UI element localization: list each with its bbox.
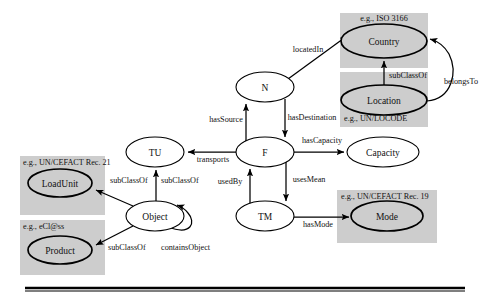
node-label-tm: TM (258, 212, 273, 222)
edge-label-hasSource: hasSource (209, 115, 243, 124)
caption-unlocode: e.g., UN/LOCODE (344, 114, 407, 123)
edge-label-hasCapacity: hasCapacity (302, 136, 343, 145)
edge-label-usesMean: usesMean (293, 175, 326, 184)
node-label-tu: TU (149, 148, 162, 158)
edge-label-hasMode: hasMode (303, 220, 333, 229)
caption-iso3166: e.g., ISO 3166 (360, 14, 408, 23)
edge-label-locatedIn: locatedIn (293, 45, 323, 54)
caption-uncefact-21: e.g., UN/CEFACT Rec. 21 (23, 158, 111, 167)
edge-label-subClassOf-pr: subClassOf (108, 243, 146, 252)
edge-label-usedBy: usedBy (218, 177, 243, 186)
edge-label-containsObject: containsObject (161, 243, 211, 252)
caption-uncefact-19: e.g., UN/CEFACT Rec. 19 (341, 192, 429, 201)
diagram-canvas: Country Location N F TU TM Capacity Mode… (0, 0, 490, 296)
edge-label-belongsTo: belongsTo (444, 77, 478, 86)
node-label-mode: Mode (376, 212, 398, 222)
edge-label-subClassOf-lu: subClassOf (110, 176, 148, 185)
caption-eclass: e.g., eCl@ss (23, 222, 64, 231)
node-label-location: Location (367, 96, 401, 106)
node-label-object: Object (142, 212, 168, 222)
node-label-capacity: Capacity (366, 148, 400, 158)
node-label-n: N (262, 83, 269, 93)
edge-belongsTo (427, 39, 453, 101)
edge-locatedIn (288, 36, 347, 79)
node-label-product: Product (45, 246, 75, 256)
edge-label-transports: transports (197, 155, 229, 164)
node-label-country: Country (368, 37, 399, 47)
edge-label-hasDestination: hasDestination (288, 113, 337, 122)
edge-label-subClassOf-tu: subClassOf (161, 176, 199, 185)
footer-rule (25, 288, 465, 291)
edge-label-subClassOf-loc: subClassOf (389, 71, 427, 80)
node-label-f: F (262, 148, 267, 158)
ontology-diagram: Country Location N F TU TM Capacity Mode… (0, 0, 490, 296)
node-label-loadunit: LoadUnit (42, 179, 79, 189)
